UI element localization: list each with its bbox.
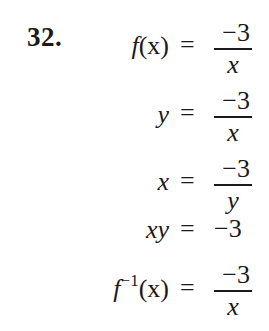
equals-sign: = bbox=[180, 168, 195, 194]
equals-sign: = bbox=[180, 32, 195, 58]
denominator: x bbox=[214, 120, 252, 146]
numerator: −3 bbox=[214, 20, 252, 46]
function-argument: (x) bbox=[139, 31, 169, 60]
function-name: f bbox=[131, 31, 138, 60]
equals-sign: = bbox=[180, 216, 195, 242]
equation-lhs: x bbox=[157, 169, 169, 195]
function-argument: (x) bbox=[139, 274, 169, 303]
equals-sign: = bbox=[180, 275, 195, 301]
equation-lhs: y bbox=[157, 102, 169, 128]
denominator: y bbox=[214, 188, 252, 214]
equals-sign: = bbox=[180, 100, 195, 126]
fraction: −3 x bbox=[214, 262, 252, 320]
equation-lhs: f(x) bbox=[131, 33, 169, 59]
numerator: −3 bbox=[214, 262, 252, 288]
inverse-superscript: −1 bbox=[121, 271, 139, 290]
denominator: x bbox=[214, 52, 252, 78]
equation-rhs: −3 bbox=[214, 216, 242, 242]
fraction: −3 y bbox=[214, 156, 252, 214]
denominator: x bbox=[214, 294, 252, 320]
numerator: −3 bbox=[214, 156, 252, 182]
function-name: f bbox=[113, 274, 120, 303]
fraction: −3 x bbox=[214, 88, 252, 146]
numerator: −3 bbox=[214, 88, 252, 114]
equation-lhs: f−1(x) bbox=[113, 276, 169, 302]
problem-number: 32. bbox=[27, 24, 62, 51]
fraction: −3 x bbox=[214, 20, 252, 78]
equation-lhs: xy bbox=[146, 217, 169, 243]
